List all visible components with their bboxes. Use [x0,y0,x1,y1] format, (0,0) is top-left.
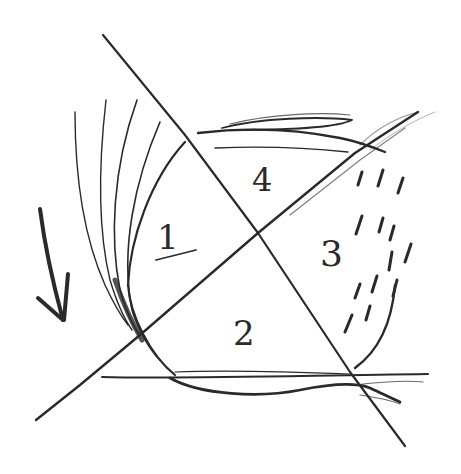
arrow-down-icon [38,209,68,320]
region-label-3: 3 [320,236,343,272]
right-dash-marks [345,170,411,332]
left-curve-bundle [128,142,185,375]
sketch-canvas [0,0,461,474]
bottom-boundary-scribble [102,374,428,378]
region-label-1: 1 [157,220,179,254]
region-label-2: 2 [233,316,255,350]
diagonal-line-ascending [36,112,418,420]
top-boundary-scribble [198,130,385,152]
right-curve [355,285,395,368]
region-label-4: 4 [252,164,272,196]
